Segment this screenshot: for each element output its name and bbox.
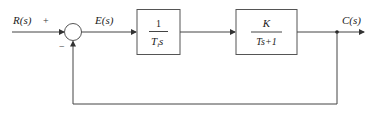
plant-numerator: K (262, 17, 271, 29)
input-signal-label: R(s) (12, 14, 32, 27)
error-signal-label: E(s) (94, 14, 114, 27)
integrator-numerator: 1 (156, 18, 161, 29)
block-diagram: R(s) + − E(s) 1 Tis K Ts+1 C(s) (0, 0, 377, 113)
plant-denominator: Ts+1 (256, 36, 276, 47)
output-signal-label: C(s) (342, 14, 361, 27)
plus-sign: + (43, 15, 49, 26)
minus-sign: − (59, 41, 65, 52)
summing-junction (65, 24, 82, 41)
